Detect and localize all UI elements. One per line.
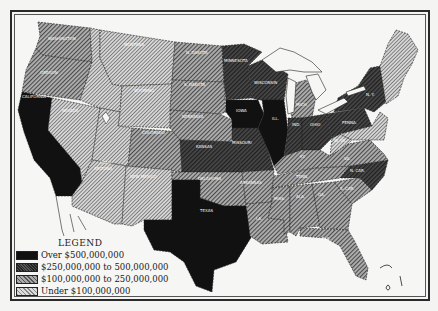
label-kansas: KANSAS bbox=[196, 144, 213, 149]
label-new-mexico: NEW MEXICO bbox=[130, 174, 157, 179]
label-louisiana: LA. bbox=[256, 216, 262, 221]
label-pennsylvania: PENNA. bbox=[342, 120, 357, 125]
label-north-carolina: N. CAR. bbox=[350, 168, 365, 173]
label-washington: WASHINGTON bbox=[48, 36, 76, 41]
swatch-solid-black-icon bbox=[16, 251, 38, 260]
label-georgia: GA. bbox=[318, 192, 325, 197]
label-south-dakota: S. DAKOTA bbox=[184, 82, 206, 87]
label-nevada: NEVADA bbox=[62, 108, 79, 113]
label-mississippi: MISS. bbox=[274, 196, 285, 201]
label-illinois: ILL. bbox=[272, 116, 279, 121]
label-minnesota: MINNESOTA bbox=[224, 58, 248, 63]
swatch-light-hatch-icon bbox=[16, 287, 38, 296]
label-virginia: VA. bbox=[344, 156, 350, 161]
swatch-dark-hatch-icon bbox=[16, 263, 38, 272]
label-tennessee: TENN. bbox=[295, 174, 308, 179]
label-florida: FLA. bbox=[322, 236, 331, 241]
legend-title: LEGEND bbox=[58, 238, 186, 248]
state-new-england bbox=[380, 30, 418, 104]
legend-item-under-100m: Under $100,000,000 bbox=[16, 285, 186, 297]
legend-label: $100,000,000 to 250,000,000 bbox=[41, 274, 169, 284]
label-kentucky: KY. bbox=[300, 154, 305, 159]
label-texas: TEXAS bbox=[199, 208, 213, 213]
label-arkansas: ARKANSAS bbox=[240, 180, 262, 185]
label-wyoming: WYOMING bbox=[134, 88, 154, 93]
label-ohio: OHIO bbox=[310, 122, 320, 127]
label-wisconsin: WISCONSIN bbox=[254, 80, 277, 85]
label-utah: UTAH bbox=[100, 160, 111, 165]
label-nebraska: NEBRASKA bbox=[182, 114, 204, 119]
label-arizona: ARIZONA bbox=[94, 166, 113, 171]
label-south-carolina: S. CAR. bbox=[340, 186, 355, 191]
label-alabama: ALA. bbox=[296, 194, 305, 199]
lake-michigan bbox=[286, 78, 296, 114]
label-missouri: MISSOURI bbox=[232, 140, 252, 145]
label-new-york: N. Y. bbox=[366, 92, 375, 97]
state-florida bbox=[300, 228, 368, 280]
state-montana bbox=[100, 30, 175, 86]
label-iowa: IOWA bbox=[236, 108, 247, 113]
label-north-dakota: N. DAKOTA bbox=[186, 50, 208, 55]
label-california: CALIFORNIA bbox=[22, 94, 46, 99]
label-montana: MONTANA bbox=[124, 42, 144, 47]
state-north-dakota bbox=[172, 42, 224, 82]
legend-item-100m-250m: $100,000,000 to 250,000,000 bbox=[16, 273, 186, 285]
label-west-virginia: W. VA. bbox=[334, 138, 346, 143]
legend-label: $250,000,000 to 500,000,000 bbox=[41, 262, 169, 272]
state-arkansas bbox=[242, 170, 274, 204]
bahamas-islands bbox=[380, 265, 402, 290]
label-michigan: MICH. bbox=[296, 102, 308, 107]
legend-item-250m-500m: $250,000,000 to 500,000,000 bbox=[16, 261, 186, 273]
legend: LEGEND Over $500,000,000 $250,000,000 to… bbox=[16, 238, 186, 297]
label-colorado: COLORADO bbox=[142, 130, 165, 135]
label-oregon: OREGON bbox=[40, 70, 58, 75]
legend-label: Under $100,000,000 bbox=[41, 286, 130, 296]
label-indiana: IND. bbox=[292, 122, 301, 127]
legend-item-over-500m: Over $500,000,000 bbox=[16, 249, 186, 261]
label-oklahoma: OKLAHOMA bbox=[198, 176, 221, 181]
swatch-diagonal-hatch-icon bbox=[16, 275, 38, 284]
legend-label: Over $500,000,000 bbox=[41, 250, 124, 260]
